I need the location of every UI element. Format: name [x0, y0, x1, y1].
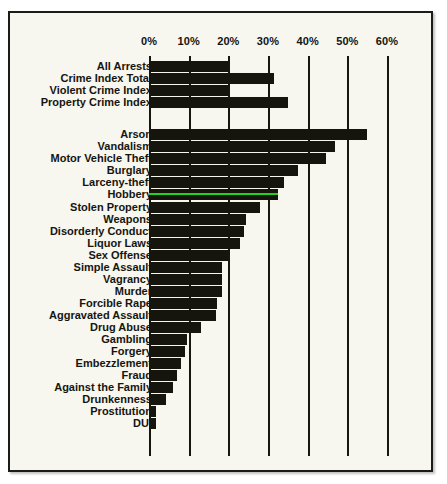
bar-label-drunkenness: Drunkenness: [82, 393, 152, 406]
bar-vagrancy: [149, 274, 222, 285]
bar-row: Simple Assault: [10, 262, 435, 274]
bar-motor-vehicle-theft: [149, 153, 326, 164]
bar-row: Disorderly Conduct: [10, 226, 435, 238]
chart-plot-wrapper: 0%10%20%30%40%50%60% All ArrestsCrime In…: [10, 13, 435, 474]
bar-row: Larceny-theft: [10, 177, 435, 189]
bar-label-weapons: Weapons: [103, 213, 152, 226]
bar-label-property-crime-index: Property Crime Index: [41, 96, 152, 109]
bar-all-arrests: [149, 61, 228, 72]
bar-row: Against the Family: [10, 382, 435, 394]
bar-label-vandalism: Vandalism: [98, 140, 152, 153]
bar-row: Stolen Property: [10, 202, 435, 214]
bar-row: Arson: [10, 129, 435, 141]
bar-drug-abuse: [149, 322, 201, 333]
bar-label-forgery: Forgery: [111, 345, 152, 358]
bar-property-crime-index: [149, 97, 288, 108]
bar-label-crime-index-total: Crime Index Total: [61, 72, 152, 85]
bar-sex-offense: [149, 250, 228, 261]
bar-larceny-theft: [149, 177, 284, 188]
bar-label-aggravated-assault: Aggravated Assault: [49, 309, 152, 322]
bar-label-larceny-theft: Larceny-theft: [82, 176, 152, 189]
bar-weapons: [149, 214, 246, 225]
bar-label-hobbery: Hobbery: [107, 188, 152, 201]
bar-embezzlement: [149, 358, 181, 369]
bar-label-all-arrests: All Arrests: [97, 60, 152, 73]
bar-row: Drunkenness: [10, 394, 435, 406]
bar-row: Forgery: [10, 346, 435, 358]
bar-label-embezzlement: Embezzlement: [76, 357, 152, 370]
bar-label-violent-crime-index: Violent Crime Index: [50, 84, 153, 97]
bar-row: Drug Abuse: [10, 322, 435, 334]
bar-crime-index-total: [149, 73, 274, 84]
bar-label-gambling: Gambling: [101, 333, 152, 346]
bar-row: DUI: [10, 418, 435, 430]
bar-row: Liquor Laws: [10, 238, 435, 250]
bar-forgery: [149, 346, 185, 357]
bar-row: Property Crime Index: [10, 97, 435, 109]
bar-murder: [149, 286, 222, 297]
bar-row: Gambling: [10, 334, 435, 346]
bar-row: Motor Vehicle Theft: [10, 153, 435, 165]
bar-row: Aggravated Assault: [10, 310, 435, 322]
bar-label-drug-abuse: Drug Abuse: [90, 321, 152, 334]
bar-label-fraud: Fraud: [121, 369, 152, 382]
bar-label-disorderly-conduct: Disorderly Conduct: [50, 225, 152, 238]
bar-row: Murder: [10, 286, 435, 298]
bar-gambling: [149, 334, 187, 345]
bar-label-burglary: Burglary: [107, 164, 152, 177]
bar-label-liquor-laws: Liquor Laws: [87, 237, 152, 250]
bar-vandalism: [149, 141, 335, 152]
bar-label-vagrancy: Vagrancy: [103, 273, 152, 286]
bar-against-the-family: [149, 382, 173, 393]
bar-row: Burglary: [10, 165, 435, 177]
bar-label-forcible-rape: Forcible Rape: [79, 297, 152, 310]
bar-simple-assault: [149, 262, 222, 273]
bar-forcible-rape: [149, 298, 217, 309]
bar-label-sex-offense: Sex Offense: [88, 249, 152, 262]
bar-violent-crime-index: [149, 85, 228, 96]
bar-liquor-laws: [149, 238, 240, 249]
bar-label-against-the-family: Against the Family: [54, 381, 152, 394]
chart-card: 0%10%20%30%40%50%60% All ArrestsCrime In…: [8, 11, 433, 472]
bar-aggravated-assault: [149, 310, 216, 321]
bar-burglary: [149, 165, 298, 176]
bar-fraud: [149, 370, 177, 381]
bar-label-murder: Murder: [115, 285, 152, 298]
bar-row: Prostitution: [10, 406, 435, 418]
bar-disorderly-conduct: [149, 226, 244, 237]
bar-label-motor-vehicle-theft: Motor Vehicle Theft: [51, 152, 152, 165]
bar-label-arson: Arson: [120, 128, 152, 141]
bar-label-stolen-property: Stolen Property: [70, 201, 152, 214]
bar-rows-container: All ArrestsCrime Index TotalViolent Crim…: [10, 13, 435, 474]
bar-hobbery: [149, 189, 278, 200]
bar-stolen-property: [149, 202, 260, 213]
bar-arson: [149, 129, 367, 140]
bar-label-prostitution: Prostitution: [90, 405, 152, 418]
bar-label-simple-assault: Simple Assault: [74, 261, 152, 274]
bar-row: Embezzlement: [10, 358, 435, 370]
bar-drunkenness: [149, 394, 166, 405]
bar-dui: [149, 418, 156, 429]
bar-prostitution: [149, 406, 156, 417]
bar-row: Vagrancy: [10, 274, 435, 286]
